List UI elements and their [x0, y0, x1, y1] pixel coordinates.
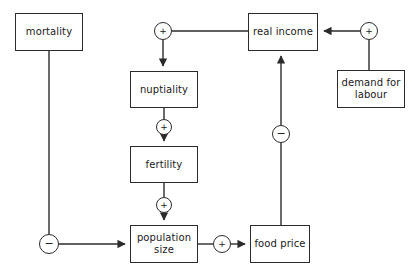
node-nuptiality-label: nuptiality	[140, 84, 188, 96]
node-real-income-label: real income	[253, 26, 313, 38]
minus-sign-icon: −	[276, 129, 285, 138]
plus-sign-icon: +	[218, 240, 226, 249]
node-population-size-label: population size	[137, 232, 191, 256]
sign-plus-fertility-to-population[interactable]: +	[156, 197, 172, 213]
plus-sign-icon: +	[365, 27, 373, 36]
node-real-income[interactable]: real income	[248, 13, 318, 51]
node-nuptiality[interactable]: nuptiality	[130, 71, 198, 108]
sign-plus-demand-to-real-income[interactable]: +	[360, 22, 378, 40]
node-fertility[interactable]: fertility	[130, 146, 198, 183]
sign-plus-real-income-to-nuptiality[interactable]: +	[154, 22, 172, 40]
sign-plus-population-to-food-price[interactable]: +	[213, 235, 231, 253]
node-food-price-label: food price	[254, 238, 305, 250]
node-fertility-label: fertility	[146, 159, 183, 171]
plus-sign-icon: +	[159, 27, 167, 36]
sign-plus-nuptiality-to-fertility[interactable]: +	[156, 119, 172, 135]
plus-sign-icon: +	[160, 201, 168, 210]
diagram-canvas: mortality nuptiality fertility populatio…	[0, 0, 419, 277]
node-mortality[interactable]: mortality	[15, 13, 83, 51]
minus-sign-icon: −	[44, 239, 53, 248]
plus-sign-icon: +	[160, 123, 168, 132]
sign-minus-mortality-to-population[interactable]: −	[39, 234, 59, 254]
node-demand-for-labour[interactable]: demand for labour	[337, 70, 405, 108]
sign-minus-food-price-to-real-income[interactable]: −	[272, 125, 290, 143]
node-demand-for-labour-label: demand for labour	[342, 77, 401, 101]
node-mortality-label: mortality	[26, 26, 72, 38]
edge-mortality-to-population	[49, 51, 125, 244]
edge-realincome-to-nuptiality	[163, 31, 248, 66]
node-population-size[interactable]: population size	[130, 225, 198, 263]
node-food-price[interactable]: food price	[250, 225, 310, 263]
